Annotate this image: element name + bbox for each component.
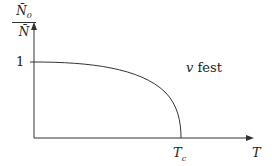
y-axis-label: N̄0 N̄ [12,4,36,39]
y-tick-label: 1 [16,55,24,68]
x-axis-arrow-icon [246,135,254,141]
plot-canvas [0,0,272,166]
numerator: N̄ [16,4,27,18]
denominator: N̄ [12,25,36,39]
curve [34,62,181,138]
numerator-sub: 0 [27,11,32,20]
tc-base: T [173,145,182,160]
x-tick-label: Tc [173,146,186,163]
annotation: v fest [186,60,222,75]
tc-sub: c [182,154,186,163]
annotation-text: fest [193,60,222,75]
x-axis-label: T [252,146,261,159]
